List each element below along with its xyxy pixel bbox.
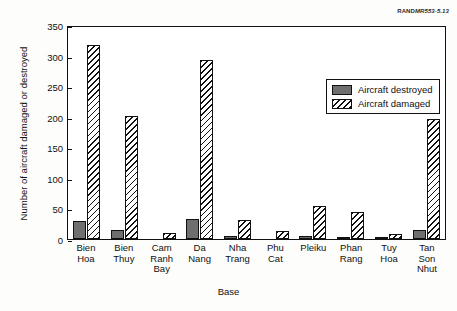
bar-destroyed	[111, 230, 124, 239]
x-tick-label: Bien Thuy	[106, 243, 142, 275]
bar-group	[186, 27, 213, 239]
y-tick-label: 0	[58, 235, 63, 246]
bar-damaged	[163, 233, 176, 239]
y-tick-label: 350	[47, 21, 63, 32]
bar-destroyed	[299, 236, 312, 239]
credit-number: MR553-5.13	[415, 8, 449, 14]
bar-group	[149, 27, 176, 239]
bar-damaged	[125, 116, 138, 239]
y-tick-label: 250	[47, 82, 63, 93]
x-tick-label: Phu Cat	[257, 243, 293, 275]
x-tick-label: Nha Trang	[220, 243, 256, 275]
bar-group	[299, 27, 326, 239]
plot-area: 050100150200250300350 Aircraft destroyed…	[67, 26, 446, 240]
y-tick-mark	[68, 241, 72, 242]
bar-destroyed	[375, 237, 388, 239]
x-axis-title: Base	[0, 286, 457, 297]
rand-credit-line: RANDMR553-5.13	[397, 8, 449, 14]
figure-aircraft-damage-chart: RANDMR553-5.13 Number of aircraft damage…	[0, 0, 457, 311]
legend-swatch	[332, 99, 352, 109]
bar-groups	[68, 27, 445, 239]
legend-label: Aircraft damaged	[358, 98, 430, 109]
bar-group	[375, 27, 402, 239]
x-axis-tick-labels: Bien HoaBien ThuyCam Ranh BayDa NangNha …	[67, 243, 446, 275]
bar-damaged	[200, 60, 213, 239]
x-tick-label: Pleiku	[295, 243, 331, 275]
legend-swatch	[332, 85, 352, 95]
bar-damaged	[427, 119, 440, 239]
legend-label: Aircraft destroyed	[358, 84, 432, 95]
legend-item: Aircraft destroyed	[332, 84, 432, 95]
y-tick-label: 100	[47, 174, 63, 185]
bar-damaged	[313, 206, 326, 239]
y-tick-label: 50	[52, 204, 63, 215]
bar-damaged	[351, 212, 364, 240]
bar-group	[224, 27, 251, 239]
bar-damaged	[238, 220, 251, 239]
chart-legend: Aircraft destroyedAircraft damaged	[326, 79, 440, 114]
credit-org: RAND	[397, 8, 415, 14]
bar-destroyed	[186, 219, 199, 239]
bar-group	[337, 27, 364, 239]
y-tick-label: 300	[47, 52, 63, 63]
x-tick-label: Tan Son Nhut	[409, 243, 445, 275]
bar-damaged	[87, 45, 100, 239]
legend-item: Aircraft damaged	[332, 98, 432, 109]
bar-destroyed	[413, 230, 426, 239]
x-tick-label: Bien Hoa	[68, 243, 104, 275]
x-tick-label: Da Nang	[182, 243, 218, 275]
x-tick-label: Phan Rang	[333, 243, 369, 275]
bar-group	[73, 27, 100, 239]
bar-group	[111, 27, 138, 239]
bar-group	[413, 27, 440, 239]
bar-destroyed	[73, 221, 86, 239]
y-axis-title: Number of aircraft damaged or destroyed	[18, 19, 29, 249]
y-tick-label: 200	[47, 113, 63, 124]
bar-damaged	[389, 234, 402, 239]
bar-group	[262, 27, 289, 239]
x-tick-label: Cam Ranh Bay	[144, 243, 180, 275]
bar-damaged	[276, 231, 289, 239]
x-tick-label: Tuy Hoa	[371, 243, 407, 275]
y-tick-label: 150	[47, 143, 63, 154]
bar-destroyed	[337, 237, 350, 239]
bar-destroyed	[224, 236, 237, 239]
